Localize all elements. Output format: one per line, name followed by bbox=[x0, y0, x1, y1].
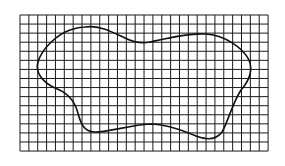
grid-diagram bbox=[0, 0, 285, 166]
grid bbox=[20, 15, 268, 151]
grid-figure bbox=[0, 0, 285, 166]
